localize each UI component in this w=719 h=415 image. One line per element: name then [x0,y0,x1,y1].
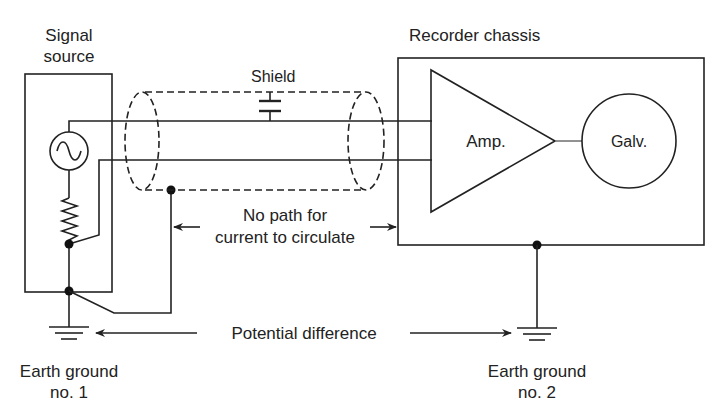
capacitor-icon [259,92,281,121]
node-resistor [65,240,74,249]
resistor-icon [62,198,77,244]
earth-ground-1-label-2: no. 1 [50,383,88,402]
recorder-chassis-box [398,58,704,245]
signal-wire-high [69,121,432,132]
shield-label: Shield [251,68,295,85]
ac-source-icon [50,132,88,170]
earth-ground-2-label-2: no. 2 [518,383,556,402]
earth-ground-2-label-1: Earth ground [488,362,586,381]
signal-source-label-2: source [43,47,94,66]
shield-drain-wire [69,190,171,313]
no-path-label-2: current to circulate [215,228,355,247]
earth-ground-1-label-1: Earth ground [20,362,118,381]
recorder-chassis-label: Recorder chassis [409,26,540,45]
earth-ground-1-icon [49,327,89,339]
earth-ground-2-icon [517,328,557,340]
potential-difference-label: Potential difference [231,324,376,343]
signal-source-label-1: Signal [45,26,92,45]
grounding-diagram: Signal source Recorder chassis Shield Am… [0,0,719,415]
galv-label: Galv. [611,133,647,150]
shield-icon [125,92,384,190]
no-path-label-1: No path for [243,206,327,225]
amp-label: Amp. [466,132,506,151]
